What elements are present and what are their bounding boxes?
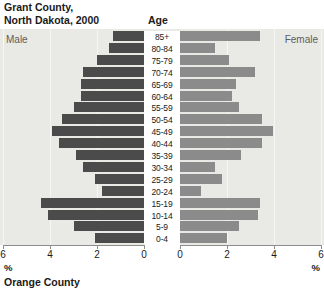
axis-tick-label: 0 — [173, 249, 187, 260]
female-bar — [180, 126, 273, 136]
page-title: Grant County, North Dakota, 2000 — [4, 1, 154, 26]
age-group-label: 45-49 — [144, 126, 180, 138]
pyramid-row: 60-64 — [0, 91, 324, 103]
female-bar — [180, 91, 232, 101]
axis-unit-label: % — [4, 262, 12, 273]
female-bar — [180, 174, 222, 184]
pyramid-row: 0-4 — [0, 233, 324, 245]
axis-tick-label: 6 — [314, 249, 324, 260]
male-bar — [109, 43, 144, 53]
axis-line — [3, 245, 145, 246]
male-bar — [97, 55, 144, 65]
age-group-label: 35-39 — [144, 150, 180, 162]
pyramid-row: 40-44 — [0, 138, 324, 150]
pyramid-row: 65-69 — [0, 79, 324, 91]
pyramid-row: 85+ — [0, 31, 324, 43]
female-bar — [180, 79, 236, 89]
male-bar — [62, 114, 144, 124]
male-bar — [83, 162, 144, 172]
pyramid-row: 45-49 — [0, 126, 324, 138]
axis-tick-label: 2 — [220, 249, 234, 260]
age-group-label: 55-59 — [144, 102, 180, 114]
age-group-label: 50-54 — [144, 114, 180, 126]
axis-tick-label: 4 — [43, 249, 57, 260]
age-group-label: 15-19 — [144, 198, 180, 210]
female-bar — [180, 67, 255, 77]
pyramid-row: 25-29 — [0, 174, 324, 186]
female-bar — [180, 114, 262, 124]
male-bar — [95, 174, 144, 184]
plot-panel: Male Female 85+80-8475-7970-7465-6960-64… — [0, 29, 324, 245]
male-bar — [41, 198, 144, 208]
male-bar — [81, 91, 144, 101]
age-group-label: 65-69 — [144, 79, 180, 91]
female-bar — [180, 186, 201, 196]
age-group-label: 5-9 — [144, 221, 180, 233]
male-bar — [48, 210, 144, 220]
pyramid-row: 50-54 — [0, 114, 324, 126]
pyramid-row: 35-39 — [0, 150, 324, 162]
female-bar — [180, 102, 239, 112]
age-group-label: 75-79 — [144, 55, 180, 67]
axis-tick-label: 4 — [267, 249, 281, 260]
pyramid-row: 55-59 — [0, 102, 324, 114]
age-group-label: 10-14 — [144, 210, 180, 222]
male-bar — [74, 102, 145, 112]
age-group-label: 85+ — [144, 31, 180, 43]
next-section-caption: Orange County — [4, 276, 80, 288]
female-bar — [180, 138, 262, 148]
age-group-label: 60-64 — [144, 91, 180, 103]
axis-unit-label: % — [312, 262, 320, 273]
female-bar — [180, 210, 258, 220]
age-group-label: 70-74 — [144, 67, 180, 79]
male-bar — [76, 150, 144, 160]
axis-tick-label: 0 — [137, 249, 151, 260]
age-group-label: 25-29 — [144, 174, 180, 186]
male-bar — [102, 186, 144, 196]
pyramid-row: 15-19 — [0, 198, 324, 210]
pyramid-row: 5-9 — [0, 221, 324, 233]
axis-tick-label: 6 — [0, 249, 10, 260]
age-group-label: 20-24 — [144, 186, 180, 198]
age-group-label: 40-44 — [144, 138, 180, 150]
male-bar — [52, 126, 144, 136]
age-column-header: Age — [148, 14, 168, 26]
pyramid-row: 30-34 — [0, 162, 324, 174]
male-bar — [81, 79, 144, 89]
male-bar — [95, 233, 144, 243]
age-group-label: 80-84 — [144, 43, 180, 55]
age-group-label: 0-4 — [144, 233, 180, 245]
pyramid-row: 20-24 — [0, 186, 324, 198]
female-bar — [180, 55, 229, 65]
female-bar — [180, 221, 239, 231]
male-bar — [74, 221, 145, 231]
female-bar — [180, 31, 260, 41]
pyramid-row: 70-74 — [0, 67, 324, 79]
pyramid-row: 80-84 — [0, 43, 324, 55]
bar-rows: 85+80-8475-7970-7465-6960-6455-5950-5445… — [0, 29, 324, 245]
axis-line — [180, 245, 322, 246]
male-bar — [113, 31, 144, 41]
axis-tick-label: 2 — [90, 249, 104, 260]
female-bar — [180, 150, 241, 160]
age-group-label: 30-34 — [144, 162, 180, 174]
female-bar — [180, 43, 215, 53]
pyramid-row: 10-14 — [0, 210, 324, 222]
male-bar — [59, 138, 144, 148]
female-bar — [180, 233, 227, 243]
male-bar — [83, 67, 144, 77]
female-bar — [180, 162, 215, 172]
female-bar — [180, 198, 260, 208]
pyramid-row: 75-79 — [0, 55, 324, 67]
